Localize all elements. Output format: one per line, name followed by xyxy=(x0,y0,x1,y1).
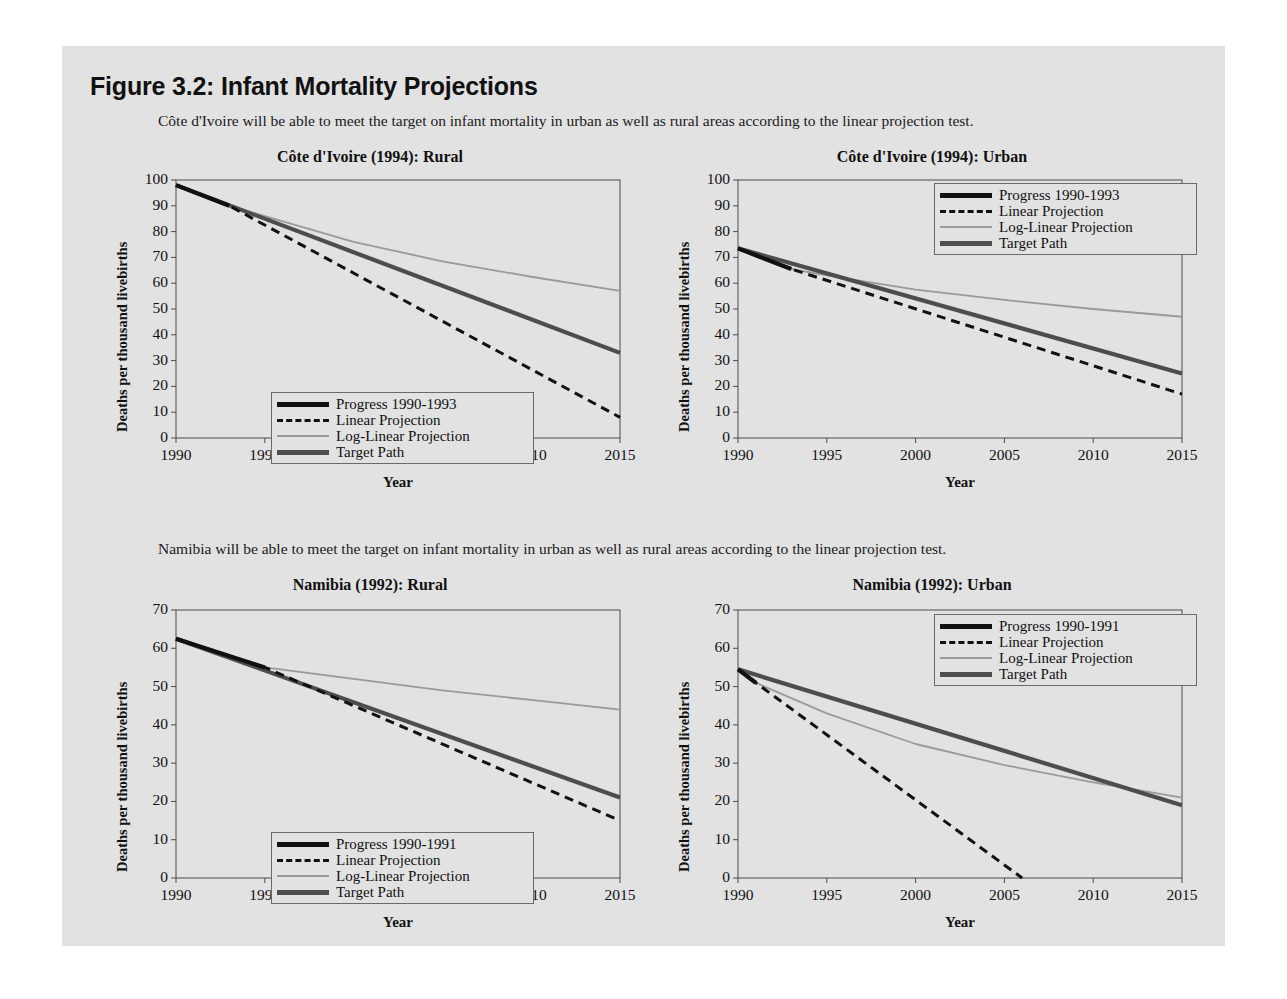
legend-swatch-icon xyxy=(940,667,992,681)
x-axis-tick-label: 2005 xyxy=(974,446,1034,464)
x-axis-tick-label: 2015 xyxy=(1152,446,1212,464)
legend-swatch-icon xyxy=(277,445,329,459)
x-axis-label: Year xyxy=(176,474,620,491)
series-line xyxy=(176,185,620,417)
y-axis-label: Deaths per thousand livebirths xyxy=(676,682,693,872)
series-line xyxy=(176,185,620,291)
legend-item: Log-Linear Projection xyxy=(940,650,1190,666)
x-axis-tick-label: 2015 xyxy=(590,886,650,904)
y-axis-tick-label: 60 xyxy=(124,638,168,656)
series-line xyxy=(738,669,1182,805)
legend-item: Linear Projection xyxy=(277,852,527,868)
legend-item: Target Path xyxy=(940,666,1190,682)
legend-swatch-icon xyxy=(940,220,992,234)
series-line xyxy=(176,639,620,710)
y-axis-label: Deaths per thousand livebirths xyxy=(114,682,131,872)
legend-label: Progress 1990-1993 xyxy=(999,187,1119,203)
legend-label: Log-Linear Projection xyxy=(336,868,470,884)
legend-label: Log-Linear Projection xyxy=(999,219,1133,235)
y-axis-tick-label: 70 xyxy=(124,600,168,618)
legend-item: Target Path xyxy=(277,884,527,900)
x-axis-tick-label: 1995 xyxy=(797,446,857,464)
legend-item: Target Path xyxy=(277,444,527,460)
legend-label: Target Path xyxy=(336,444,404,460)
x-axis-tick-label: 1990 xyxy=(146,886,206,904)
x-axis-tick-label: 2015 xyxy=(1152,886,1212,904)
legend-item: Linear Projection xyxy=(277,412,527,428)
legend-swatch-icon xyxy=(940,188,992,202)
y-axis-label: Deaths per thousand livebirths xyxy=(676,242,693,432)
y-axis-tick-label: 100 xyxy=(686,170,730,188)
legend-label: Progress 1990-1991 xyxy=(336,836,456,852)
legend-label: Linear Projection xyxy=(999,203,1104,219)
x-axis-tick-label: 2010 xyxy=(1063,886,1123,904)
legend-item: Log-Linear Projection xyxy=(940,219,1190,235)
legend-swatch-icon xyxy=(940,619,992,633)
y-axis-tick-label: 70 xyxy=(686,600,730,618)
y-axis-tick-label: 90 xyxy=(124,196,168,214)
legend: Progress 1990-1991Linear ProjectionLog-L… xyxy=(934,614,1197,686)
legend-item: Linear Projection xyxy=(940,203,1190,219)
legend-label: Target Path xyxy=(999,235,1067,251)
chart-namibia-urban: Namibia (1992): Urban 010203040506070199… xyxy=(662,576,1202,926)
legend: Progress 1990-1993Linear ProjectionLog-L… xyxy=(934,183,1197,255)
legend-item: Target Path xyxy=(940,235,1190,251)
legend-swatch-icon xyxy=(940,236,992,250)
legend-label: Target Path xyxy=(336,884,404,900)
legend-item: Log-Linear Projection xyxy=(277,868,527,884)
x-axis-label: Year xyxy=(738,914,1182,931)
figure-page: Figure 3.2: Infant Mortality Projections… xyxy=(62,46,1225,946)
legend-swatch-icon xyxy=(277,853,329,867)
x-axis-tick-label: 2000 xyxy=(886,446,946,464)
caption-cote-divoire: Côte d'Ivoire will be able to meet the t… xyxy=(158,112,974,130)
chart-cote-divoire-rural: Côte d'Ivoire (1994): Rural 010203040506… xyxy=(100,148,640,488)
legend-swatch-icon xyxy=(277,397,329,411)
chart-cote-divoire-urban: Côte d'Ivoire (1994): Urban 010203040506… xyxy=(662,148,1202,488)
series-line xyxy=(176,639,620,821)
x-axis-tick-label: 1990 xyxy=(146,446,206,464)
legend-item: Linear Projection xyxy=(940,634,1190,650)
x-axis-tick-label: 2010 xyxy=(1063,446,1123,464)
legend-item: Progress 1990-1993 xyxy=(940,187,1190,203)
x-axis-tick-label: 1995 xyxy=(797,886,857,904)
x-axis-label: Year xyxy=(738,474,1182,491)
legend-item: Log-Linear Projection xyxy=(277,428,527,444)
legend-item: Progress 1990-1991 xyxy=(277,836,527,852)
caption-namibia: Namibia will be able to meet the target … xyxy=(158,540,946,558)
series-line xyxy=(176,639,620,798)
y-axis-label: Deaths per thousand livebirths xyxy=(114,242,131,432)
y-axis-tick-label: 100 xyxy=(124,170,168,188)
legend-label: Progress 1990-1993 xyxy=(336,396,456,412)
series-line xyxy=(738,248,1182,316)
legend: Progress 1990-1991Linear ProjectionLog-L… xyxy=(271,832,534,904)
legend-item: Progress 1990-1993 xyxy=(277,396,527,412)
legend-swatch-icon xyxy=(277,837,329,851)
x-axis-tick-label: 2000 xyxy=(886,886,946,904)
legend-swatch-icon xyxy=(940,651,992,665)
legend-swatch-icon xyxy=(940,204,992,218)
legend-label: Log-Linear Projection xyxy=(999,650,1133,666)
chart-namibia-rural: Namibia (1992): Rural 010203040506070199… xyxy=(100,576,640,926)
legend-label: Log-Linear Projection xyxy=(336,428,470,444)
legend-swatch-icon xyxy=(277,869,329,883)
x-axis-label: Year xyxy=(176,914,620,931)
y-axis-tick-label: 80 xyxy=(124,222,168,240)
x-axis-tick-label: 2015 xyxy=(590,446,650,464)
legend: Progress 1990-1993Linear ProjectionLog-L… xyxy=(271,392,534,464)
series-line xyxy=(738,669,1022,878)
legend-label: Linear Projection xyxy=(999,634,1104,650)
y-axis-tick-label: 60 xyxy=(686,638,730,656)
page-title: Figure 3.2: Infant Mortality Projections xyxy=(90,72,538,101)
x-axis-tick-label: 2005 xyxy=(974,886,1034,904)
legend-label: Progress 1990-1991 xyxy=(999,618,1119,634)
series-line xyxy=(176,185,620,353)
legend-swatch-icon xyxy=(940,635,992,649)
legend-swatch-icon xyxy=(277,885,329,899)
series-line xyxy=(738,248,1182,394)
y-axis-tick-label: 80 xyxy=(686,222,730,240)
x-axis-tick-label: 1990 xyxy=(708,886,768,904)
legend-swatch-icon xyxy=(277,413,329,427)
legend-swatch-icon xyxy=(277,429,329,443)
legend-label: Linear Projection xyxy=(336,852,441,868)
y-axis-tick-label: 90 xyxy=(686,196,730,214)
